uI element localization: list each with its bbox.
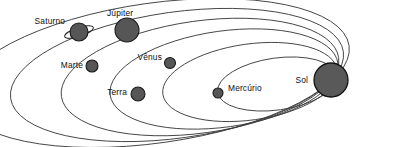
mercurio-label: Mercúrio bbox=[228, 83, 262, 93]
mercurio-body[interactable] bbox=[213, 88, 223, 98]
terra-body[interactable] bbox=[131, 87, 145, 101]
sol-label: Sol bbox=[295, 75, 308, 85]
marte-label: Marte bbox=[61, 60, 83, 70]
marte-body[interactable] bbox=[86, 60, 98, 72]
venus-label: Vênus bbox=[138, 52, 163, 62]
orbit-terra bbox=[103, 15, 344, 142]
saturno-label: Saturno bbox=[35, 16, 66, 26]
terra-label: Terra bbox=[107, 87, 127, 97]
jupiter-label: Júpiter bbox=[107, 8, 133, 18]
venus-body[interactable] bbox=[165, 58, 176, 69]
body-labels-group: SolMercúrioVênusTerraMarteJúpiterSaturno bbox=[35, 8, 308, 97]
saturno-body[interactable] bbox=[70, 23, 88, 41]
solar-system-diagram: SolMercúrioVênusTerraMarteJúpiterSaturno bbox=[0, 0, 416, 147]
celestial-bodies-group bbox=[63, 18, 348, 101]
jupiter-body[interactable] bbox=[115, 18, 139, 42]
sol-body[interactable] bbox=[314, 63, 348, 97]
solar-system-canvas: SolMercúrioVênusTerraMarteJúpiterSaturno bbox=[0, 0, 416, 147]
